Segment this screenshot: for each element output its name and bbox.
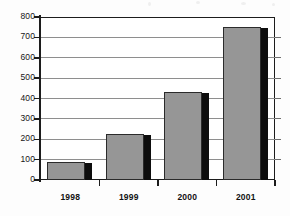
y-axis-label: 200 xyxy=(1,134,35,143)
scan-artifact xyxy=(148,2,151,6)
bar-shadow xyxy=(143,135,151,180)
x-axis-tick xyxy=(216,180,218,186)
y-axis-tick-outer xyxy=(275,118,281,119)
bar-shadow xyxy=(84,163,92,180)
bar xyxy=(47,162,85,180)
y-axis-tick-outer xyxy=(275,159,281,160)
bar-chart: 0100200300400500600700800 19981999200020… xyxy=(0,0,290,216)
y-axis-label: 400 xyxy=(1,94,35,103)
bar xyxy=(106,134,144,180)
y-axis-tick-outer xyxy=(275,78,281,79)
x-axis-label: 1999 xyxy=(104,192,154,202)
y-axis-tick-outer xyxy=(275,98,281,99)
bar xyxy=(223,27,261,180)
scan-artifact xyxy=(196,1,200,4)
x-axis-tick xyxy=(99,180,101,186)
x-axis-label: 1998 xyxy=(45,192,95,202)
x-axis-tick xyxy=(157,180,159,186)
y-axis-label: 100 xyxy=(1,155,35,164)
y-axis-tick-outer xyxy=(275,37,281,38)
y-axis-label: 500 xyxy=(1,73,35,82)
y-axis-label: 700 xyxy=(1,32,35,41)
x-axis-tick xyxy=(274,180,276,186)
x-axis-label: 2001 xyxy=(221,192,271,202)
bar-shadow xyxy=(201,93,209,180)
y-axis-tick-outer xyxy=(275,57,281,58)
bar xyxy=(164,92,202,180)
bar-shadow xyxy=(260,28,268,180)
y-axis-tick-outer xyxy=(275,139,281,140)
y-axis-label: 300 xyxy=(1,114,35,123)
scan-artifact xyxy=(241,2,246,5)
y-axis-label: 800 xyxy=(1,12,35,21)
x-axis-label: 2000 xyxy=(162,192,212,202)
scan-artifact xyxy=(272,3,275,6)
y-axis-label: 0 xyxy=(1,175,35,184)
y-axis-label: 600 xyxy=(1,53,35,62)
